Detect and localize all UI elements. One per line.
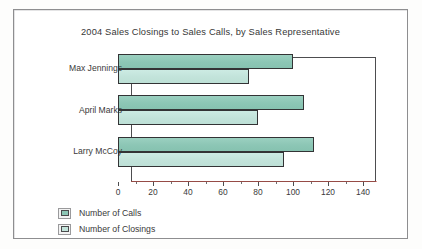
bar-max-jennings-closings (118, 69, 249, 84)
x-tick-major (188, 182, 189, 186)
chart-legend: Number of CallsNumber of Closings (58, 205, 155, 237)
x-tick-major (153, 182, 154, 186)
x-tick-label: 140 (356, 187, 370, 197)
x-tick-minor (136, 182, 137, 184)
legend-item: Number of Closings (58, 221, 155, 237)
x-tick-major (118, 182, 119, 186)
bar-april-marks-calls (118, 95, 304, 110)
legend-swatch-icon (58, 208, 71, 219)
legend-item: Number of Calls (58, 205, 155, 221)
x-tick-minor (311, 182, 312, 184)
x-tick-major (293, 182, 294, 186)
x-tick-major (258, 182, 259, 186)
x-tick-major (363, 182, 364, 186)
x-tick-label: 100 (286, 187, 300, 197)
x-tick-label: 80 (253, 187, 262, 197)
legend-label: Number of Closings (79, 224, 155, 234)
x-tick-major (223, 182, 224, 186)
x-tick-major (328, 182, 329, 186)
x-tick-label: 60 (218, 187, 227, 197)
x-tick-label: 40 (183, 187, 192, 197)
x-tick-label: 0 (116, 187, 121, 197)
bar-april-marks-closings (118, 110, 258, 125)
scanned-page: 2004 Sales Closings to Sales Calls, by S… (0, 0, 422, 249)
category-label: Larry McCoy (14, 146, 131, 156)
chart-title: 2004 Sales Closings to Sales Calls, by S… (14, 27, 407, 37)
category-label: Max Jennings (14, 63, 131, 73)
x-tick-minor (171, 182, 172, 184)
legend-label: Number of Calls (79, 208, 141, 218)
bar-max-jennings-calls (118, 54, 293, 69)
x-tick-minor (241, 182, 242, 184)
x-tick-minor (276, 182, 277, 184)
legend-swatch-icon (58, 224, 71, 235)
x-tick-label: 20 (148, 187, 157, 197)
x-tick-minor (206, 182, 207, 184)
x-axis-line (131, 181, 377, 182)
figure-frame: 2004 Sales Closings to Sales Calls, by S… (13, 9, 408, 239)
bar-larry-mccoy-closings (118, 152, 284, 167)
category-label: April Marks (14, 105, 131, 115)
bar-larry-mccoy-calls (118, 137, 314, 152)
x-tick-label: 120 (321, 187, 335, 197)
x-tick-minor (346, 182, 347, 184)
